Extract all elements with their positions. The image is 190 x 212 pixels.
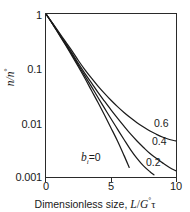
y-axis-label-text: n/n — [4, 72, 16, 87]
y-axis-label: n/n° — [2, 55, 17, 99]
y-tick-label-1: 1 — [0, 10, 42, 21]
x-tick-label-5: 5 — [96, 181, 126, 192]
chart-figure: 1 0.1 0.01 0.001 n/n° 0 5 10 Dimensionle… — [0, 0, 190, 212]
y-tick-label-0.01: 0.01 — [0, 119, 42, 130]
curve-annotation-b0-eq: =0 — [89, 151, 101, 163]
x-axis-label-tau: τ — [151, 199, 155, 210]
curve-annotation-0.6: 0.6 — [154, 118, 169, 129]
x-axis-label-prefix: Dimensionless size, — [35, 198, 131, 210]
plot-area — [45, 13, 177, 178]
curve-b0-4 — [46, 14, 176, 171]
x-tick-label-0: 0 — [31, 181, 61, 192]
curve-annotation-b0: bi=0 — [81, 152, 101, 168]
curve-b0 — [46, 14, 129, 167]
x-axis-label: Dimensionless size, L/G°τ — [0, 195, 190, 211]
curve-annotation-0.2: 0.2 — [146, 157, 161, 168]
x-axis-label-g: G — [140, 198, 148, 210]
y-axis-label-degree: ° — [3, 69, 12, 72]
curves-svg — [46, 14, 176, 177]
curve-annotation-0.4: 0.4 — [152, 136, 167, 147]
x-tick-label-10: 10 — [161, 181, 190, 192]
